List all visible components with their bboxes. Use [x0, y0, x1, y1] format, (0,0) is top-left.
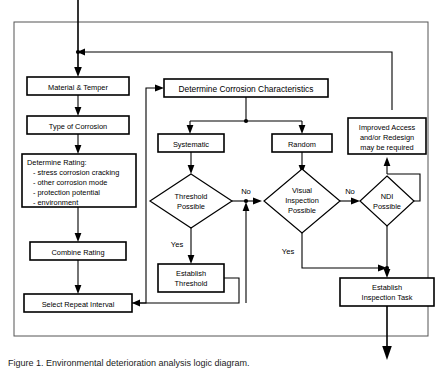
edge-combine-to-interval	[75, 260, 82, 294]
node-ndi-line-1: Possible	[373, 202, 401, 211]
node-ndi-line-0: NDI	[381, 192, 394, 201]
node-visual-line-0: Visual	[292, 186, 312, 195]
node-threshold-possible-line-1: Possible	[177, 202, 205, 211]
edge-threshold-return-riser	[243, 202, 250, 303]
node-select-repeat-interval-label: Select Repeat Interval	[42, 300, 115, 309]
edge-ndi-down	[384, 226, 391, 278]
edge-threshold-no: No	[232, 187, 262, 204]
edge-label-visual-yes: Yes	[282, 247, 295, 256]
node-determine-rating-item-2: - protection potential	[33, 188, 100, 197]
node-determine-rating-item-3: - environment	[33, 198, 78, 207]
node-visual-line-1: Inspection	[285, 196, 319, 205]
node-ndi-possible: NDI Possible	[360, 176, 414, 226]
node-select-repeat-interval: Select Repeat Interval	[24, 294, 132, 312]
node-visual-inspection-possible: Visual Inspection Possible	[264, 169, 340, 233]
flowchart-diagram: Material & Temper Type of Corrosion Dete…	[0, 0, 442, 369]
edge-material-to-type	[75, 95, 82, 116]
edge-rating-to-combine	[75, 207, 82, 242]
edge-systematic-to-threshold	[188, 152, 195, 174]
node-determine-rating-item-1: - other corrosion mode	[33, 178, 107, 187]
node-establish-threshold-line-0: Establish	[176, 269, 206, 278]
node-combine-rating: Combine Rating	[30, 242, 126, 260]
node-establish-inspection-task: Establish Inspection Task	[340, 278, 434, 306]
node-improved-access-line-1: and/or Redesign	[360, 133, 414, 142]
node-determine-rating-title: Determine Rating:	[27, 158, 87, 167]
figure-caption: Figure 1. Environmental deterioration an…	[8, 358, 250, 369]
node-determine-corrosion-characteristics-label: Determine Corrosion Characteristics	[179, 84, 314, 94]
node-random-label: Random	[288, 140, 316, 149]
edge-threshold-yes: Yes	[171, 228, 195, 264]
exit-arrow	[382, 306, 392, 360]
node-visual-line-2: Possible	[288, 206, 316, 215]
edge-visual-no: No	[340, 187, 360, 204]
entry-arrow	[74, 0, 82, 77]
node-improved-access-line-0: Improved Access	[359, 123, 416, 132]
edge-label-threshold-yes: Yes	[171, 240, 184, 249]
node-determine-rating: Determine Rating: - stress corrosion cra…	[22, 154, 136, 207]
edge-label-threshold-no: No	[241, 187, 251, 196]
node-type-of-corrosion: Type of Corrosion	[27, 116, 129, 134]
node-inspection-task-line-1: Inspection Task	[362, 293, 413, 302]
node-type-of-corrosion-label: Type of Corrosion	[49, 122, 107, 131]
node-determine-corrosion-characteristics: Determine Corrosion Characteristics	[164, 79, 328, 97]
node-material-temper: Material & Temper	[27, 77, 129, 95]
node-determine-rating-item-0: - stress corrosion cracking	[33, 168, 119, 177]
node-threshold-possible-line-0: Threshold	[175, 192, 208, 201]
node-inspection-task-line-0: Establish	[372, 283, 402, 292]
edge-characteristics-split	[187, 97, 306, 134]
node-random: Random	[272, 134, 332, 152]
edge-type-to-rating	[75, 134, 82, 154]
node-systematic: Systematic	[158, 134, 224, 152]
node-systematic-label: Systematic	[173, 140, 209, 149]
node-improved-access-line-2: may be required	[360, 143, 413, 152]
edge-visual-yes: Yes	[282, 233, 387, 271]
node-improved-access: Improved Access and/or Redesign may be r…	[348, 118, 426, 154]
node-combine-rating-label: Combine Rating	[52, 248, 105, 257]
edge-label-visual-no: No	[345, 187, 355, 196]
node-threshold-possible: Threshold Possible	[150, 174, 232, 228]
node-establish-threshold-line-1: Threshold	[175, 279, 208, 288]
node-establish-threshold: Establish Threshold	[158, 264, 224, 292]
node-material-temper-label: Material & Temper	[48, 83, 108, 92]
